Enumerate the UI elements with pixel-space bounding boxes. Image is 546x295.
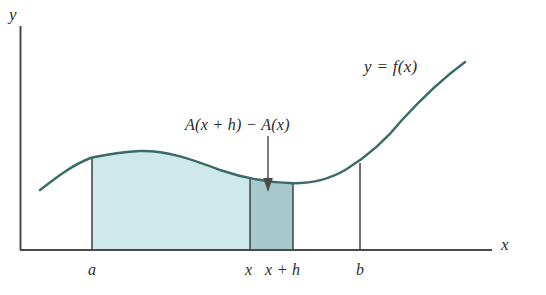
y-axis-label: y [9, 6, 17, 23]
tick-label-x: x [245, 262, 252, 278]
area-increment-label: A(x + h) − A(x) [185, 117, 290, 133]
tick-label-a: a [88, 262, 96, 278]
tick-label-b: b [356, 262, 364, 278]
x-axis-label: x [501, 236, 509, 253]
curve-label: y = f(x) [364, 58, 418, 75]
figure-area-function: y x y = f(x) A(x + h) − A(x) a x x + h b [0, 0, 546, 295]
highlight-strip-x-to-xh [250, 178, 293, 250]
tick-label-x-plus-h: x + h [265, 262, 300, 278]
diagram-canvas [0, 0, 546, 295]
